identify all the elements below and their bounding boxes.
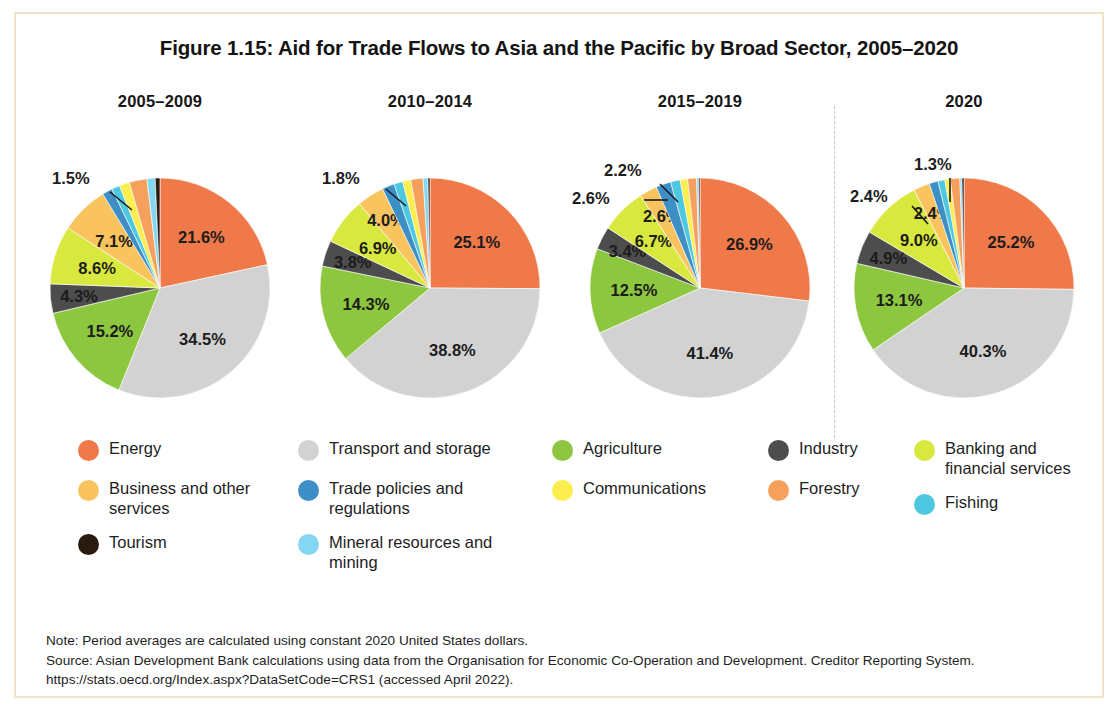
legend-swatch-icon <box>78 440 99 461</box>
figure-frame: Figure 1.15: Aid for Trade Flows to Asia… <box>14 12 1104 698</box>
slice-callout-label: 1.8% <box>322 169 360 187</box>
slice-value-label: 13.1% <box>876 291 923 309</box>
legend-item-label: Transport and storage <box>329 438 528 458</box>
pie-chart: 25.1%38.8%14.3%3.8%6.9%4.0%1.8% <box>294 92 566 432</box>
slice-value-label: 21.6% <box>178 228 225 246</box>
legend-item[interactable]: Industry <box>768 438 908 464</box>
legend-swatch-icon <box>298 440 319 461</box>
legend-swatch-icon <box>78 534 99 555</box>
pie-chart: 21.6%34.5%15.2%4.3%8.6%7.1%1.5% <box>24 92 296 432</box>
legend-item[interactable]: Energy <box>78 438 278 464</box>
footnotes: Note: Period averages are calculated usi… <box>46 631 1106 690</box>
legend-item-label: Communications <box>583 478 752 498</box>
pie-panel-2015-2019: 2015–2019 26.9%41.4%12.5%3.4%6.7%2.6%2.6… <box>564 92 836 432</box>
legend-column: IndustryForestry <box>768 438 908 518</box>
slice-value-label: 25.2% <box>988 233 1035 251</box>
slice-value-label: 25.1% <box>453 233 500 251</box>
slice-callout-label: 2.6% <box>572 189 610 207</box>
slice-value-label: 14.3% <box>343 295 390 313</box>
slice-value-label: 4.3% <box>60 287 98 305</box>
panel-separator <box>834 106 835 438</box>
legend-column: Banking and financial servicesFishing <box>914 438 1084 532</box>
legend-swatch-icon <box>552 480 573 501</box>
legend-item-label: Trade policies and regulations <box>329 478 528 518</box>
legend-item-label: Tourism <box>109 532 278 552</box>
slice-callout-label: 2.2% <box>604 161 642 179</box>
legend-item-label: Industry <box>799 438 908 458</box>
slice-callout-label: 1.3% <box>914 155 952 173</box>
legend-item-label: Forestry <box>799 478 908 498</box>
page-title: Figure 1.15: Aid for Trade Flows to Asia… <box>16 36 1102 60</box>
legend-swatch-icon <box>298 534 319 555</box>
slice-value-label: 26.9% <box>726 235 773 253</box>
legend-item[interactable]: Fishing <box>914 492 1084 518</box>
legend-swatch-icon <box>914 440 935 461</box>
legend-column: EnergyBusiness and other servicesTourism <box>78 438 278 572</box>
slice-value-label: 34.5% <box>179 330 226 348</box>
slice-value-label: 8.6% <box>78 259 116 277</box>
legend-swatch-icon <box>768 440 789 461</box>
legend-swatch-icon <box>298 480 319 501</box>
source-text: Source: Asian Development Bank calculati… <box>46 651 1106 690</box>
legend-item[interactable]: Tourism <box>78 532 278 558</box>
slice-value-label: 41.4% <box>687 344 734 362</box>
legend-column: AgricultureCommunications <box>552 438 752 518</box>
legend-item-label: Agriculture <box>583 438 752 458</box>
legend: EnergyBusiness and other servicesTourism… <box>78 438 1078 618</box>
pie-panel-2010-2014: 2010–2014 25.1%38.8%14.3%3.8%6.9%4.0%1.8… <box>294 92 566 432</box>
legend-item[interactable]: Forestry <box>768 478 908 504</box>
pie-panel-2005-2009: 2005–2009 21.6%34.5%15.2%4.3%8.6%7.1%1.5… <box>24 92 296 432</box>
slice-value-label: 40.3% <box>960 342 1007 360</box>
legend-swatch-icon <box>914 494 935 515</box>
legend-item-label: Fishing <box>945 492 1084 512</box>
legend-item-label: Mineral resources and mining <box>329 532 528 572</box>
legend-item[interactable]: Agriculture <box>552 438 752 464</box>
slice-value-label: 38.8% <box>429 341 476 359</box>
slice-callout-label: 1.5% <box>52 169 90 187</box>
slice-value-label: 12.5% <box>611 281 658 299</box>
note-text: Note: Period averages are calculated usi… <box>46 631 1106 651</box>
legend-item[interactable]: Mineral resources and mining <box>298 532 528 572</box>
legend-item[interactable]: Trade policies and regulations <box>298 478 528 518</box>
pie-chart: 25.2%40.3%13.1%4.9%9.0%2.4%2.4%1.3% <box>828 92 1100 432</box>
legend-item[interactable]: Communications <box>552 478 752 504</box>
pie-panel-2020: 2020 25.2%40.3%13.1%4.9%9.0%2.4%2.4%1.3% <box>828 92 1100 432</box>
legend-item[interactable]: Transport and storage <box>298 438 528 464</box>
legend-item-label: Energy <box>109 438 278 458</box>
legend-column: Transport and storageTrade policies and … <box>298 438 528 587</box>
legend-item[interactable]: Banking and financial services <box>914 438 1084 478</box>
legend-item-label: Business and other services <box>109 478 278 518</box>
slice-value-label: 9.0% <box>900 231 938 249</box>
legend-swatch-icon <box>768 480 789 501</box>
legend-swatch-icon <box>78 480 99 501</box>
slice-callout-label: 2.4% <box>850 187 888 205</box>
slice-value-label: 15.2% <box>87 322 134 340</box>
legend-swatch-icon <box>552 440 573 461</box>
legend-item[interactable]: Business and other services <box>78 478 278 518</box>
legend-item-label: Banking and financial services <box>945 438 1084 478</box>
pie-chart: 26.9%41.4%12.5%3.4%6.7%2.6%2.6%2.2% <box>564 92 836 432</box>
